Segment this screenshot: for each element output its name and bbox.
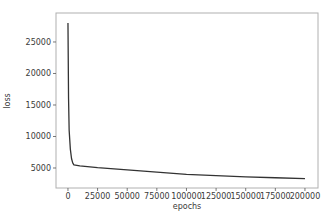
x-tick-label: 200000 [290,192,321,201]
x-tick-label: 175000 [260,192,291,201]
x-tick-label: 100000 [171,192,202,201]
x-axis: 0250005000075000100000125000150000175000… [65,188,320,201]
loss-line [68,23,305,179]
x-tick-label: 50000 [114,192,139,201]
plot-area [56,13,318,188]
y-tick-label: 5000 [31,164,51,173]
y-tick-label: 20000 [26,69,51,78]
x-tick-label: 0 [65,192,70,201]
y-tick-label: 15000 [26,101,51,110]
plot-frame [56,13,318,188]
y-axis-label: loss [3,93,12,108]
x-tick-label: 125000 [201,192,232,201]
y-tick-label: 10000 [26,132,51,141]
x-tick-label: 150000 [230,192,261,201]
x-axis-label: epochs [173,202,202,211]
loss-chart: 0250005000075000100000125000150000175000… [0,0,332,224]
y-axis: 500010000150002000025000 [26,38,56,173]
y-tick-label: 25000 [26,38,51,47]
x-tick-label: 75000 [144,192,169,201]
series-group [68,23,305,179]
x-tick-label: 25000 [85,192,110,201]
